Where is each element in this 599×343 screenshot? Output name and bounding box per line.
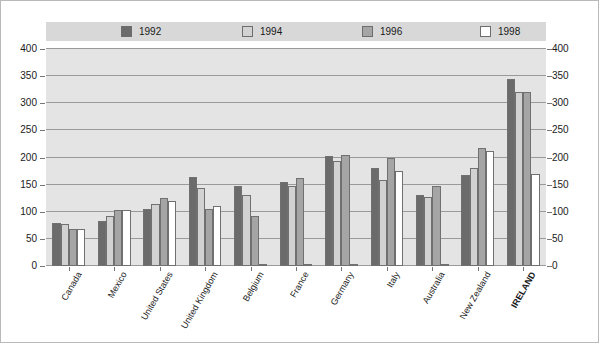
legend-swatch-icon <box>362 26 373 37</box>
y-tick-mark-left <box>40 76 45 77</box>
x-tick-mark <box>160 267 161 271</box>
x-axis-label: Mexico <box>106 270 129 300</box>
y-tick-label-left: 400 <box>0 44 37 54</box>
y-tick-mark-left <box>40 158 45 159</box>
y-tick-label-right: 50 <box>552 234 592 244</box>
bar-group <box>189 49 222 266</box>
y-tick-mark-right <box>547 76 552 77</box>
y-tick-label-right: 250 <box>552 125 592 135</box>
bar <box>151 204 159 266</box>
bar <box>52 223 60 266</box>
bar <box>387 158 395 267</box>
x-axis-label: Australia <box>421 270 447 305</box>
y-tick-mark-right <box>547 212 552 213</box>
y-tick-mark-right <box>547 130 552 131</box>
bar-group <box>143 49 176 266</box>
y-tick-mark-left <box>40 212 45 213</box>
legend-item-1998[interactable]: 1998 <box>480 25 520 38</box>
bar <box>424 197 432 266</box>
bar <box>341 155 349 266</box>
bar <box>251 216 259 266</box>
bar-series-container <box>46 49 546 266</box>
y-tick-label-right: 200 <box>552 153 592 163</box>
bar <box>122 210 130 266</box>
bar <box>98 221 106 266</box>
bar <box>531 174 539 266</box>
legend-item-1996[interactable]: 1996 <box>362 25 402 38</box>
y-tick-label-right: 100 <box>552 207 592 217</box>
bar-group <box>371 49 404 266</box>
legend-swatch-icon <box>121 26 132 37</box>
y-tick-label-left: 150 <box>0 180 37 190</box>
x-tick-mark <box>387 267 388 271</box>
y-tick-label-right: 300 <box>552 98 592 108</box>
bar <box>160 198 168 266</box>
x-tick-mark <box>251 267 252 271</box>
bar-group <box>416 49 449 266</box>
legend-label: 1998 <box>498 26 520 37</box>
bar <box>523 92 531 266</box>
legend-label: 1994 <box>260 26 282 37</box>
legend-swatch-icon <box>480 26 491 37</box>
x-tick-mark <box>523 267 524 271</box>
bar <box>296 178 304 266</box>
bar-chart: 1992199419961998 CanadaMexicoUnited Stat… <box>0 0 599 343</box>
bar <box>213 206 221 266</box>
y-tick-label-left: 250 <box>0 125 37 135</box>
x-axis-label: New Zealand <box>457 270 492 321</box>
bar <box>486 151 494 266</box>
y-tick-label-left: 100 <box>0 207 37 217</box>
y-tick-mark-left <box>40 130 45 131</box>
bar-group <box>461 49 494 266</box>
y-tick-mark-left <box>40 239 45 240</box>
bar <box>69 229 77 266</box>
y-tick-mark-right <box>547 266 552 267</box>
bar <box>106 216 114 266</box>
y-tick-mark-left <box>40 49 45 50</box>
x-axis-label: Germany <box>329 270 356 307</box>
bar <box>333 161 341 266</box>
bar <box>242 195 250 266</box>
x-tick-mark <box>478 267 479 271</box>
bar <box>280 182 288 266</box>
bar <box>77 229 85 266</box>
y-tick-label-left: 0 <box>0 261 37 271</box>
bar <box>61 224 69 266</box>
y-tick-mark-right <box>547 103 552 104</box>
y-tick-label-left: 350 <box>0 71 37 81</box>
y-tick-mark-right <box>547 158 552 159</box>
bar-group <box>98 49 131 266</box>
bar <box>325 156 333 266</box>
y-tick-label-right: 350 <box>552 71 592 81</box>
x-axis-label: Belgium <box>240 270 265 303</box>
y-tick-mark-left <box>40 266 45 267</box>
bar-group <box>280 49 313 266</box>
y-tick-mark-right <box>547 185 552 186</box>
legend-label: 1996 <box>380 26 402 37</box>
legend-swatch-icon <box>242 26 253 37</box>
bar <box>197 188 205 266</box>
x-tick-mark <box>205 267 206 271</box>
y-tick-mark-left <box>40 185 45 186</box>
legend-item-1994[interactable]: 1994 <box>242 25 282 38</box>
y-tick-mark-right <box>547 49 552 50</box>
bar <box>379 180 387 266</box>
bar-group <box>234 49 267 266</box>
x-axis-label: Italy <box>385 270 402 289</box>
bar <box>461 175 469 266</box>
y-tick-label-right: 0 <box>552 261 592 271</box>
y-tick-mark-left <box>40 103 45 104</box>
x-tick-mark <box>296 267 297 271</box>
y-tick-mark-right <box>547 239 552 240</box>
plot-area <box>46 49 546 266</box>
bar <box>205 209 213 266</box>
bar <box>168 201 176 266</box>
bar <box>114 210 122 266</box>
legend-item-1992[interactable]: 1992 <box>121 25 161 38</box>
bar <box>432 186 440 266</box>
x-tick-mark <box>432 267 433 271</box>
bar <box>478 148 486 266</box>
y-tick-label-right: 400 <box>552 44 592 54</box>
x-axis-label: France <box>288 270 311 299</box>
bar-group <box>507 49 540 266</box>
